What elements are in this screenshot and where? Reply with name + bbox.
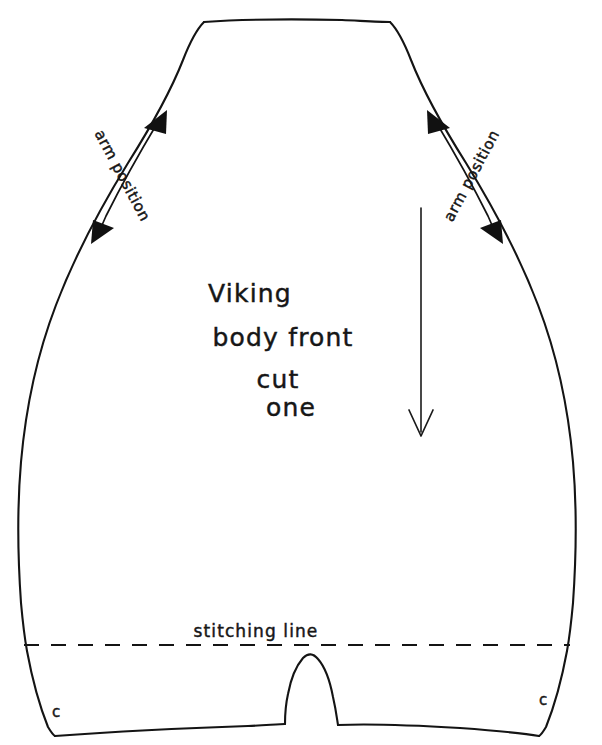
pattern-sheet: arm position arm position Viking body fr… [0, 0, 602, 745]
pattern-title-line-1: Viking [208, 279, 292, 308]
corner-c-mark-left: c [52, 703, 60, 721]
pattern-outline-lower-left [27, 651, 55, 736]
corner-c-mark-right: c [539, 691, 547, 709]
pattern-outline-right-side [390, 22, 576, 651]
center-bottom-notch [285, 654, 338, 725]
pattern-drawing: arm position arm position Viking body fr… [0, 0, 602, 745]
pattern-outline-bottom-right [338, 725, 539, 736]
pattern-outline-left-side [18, 22, 204, 651]
pattern-title-line-2: body front [212, 323, 353, 352]
pattern-title-line-3: cut [257, 365, 300, 394]
pattern-title-line-4: one [266, 393, 316, 422]
stitching-line-label: stitching line [194, 621, 319, 641]
pattern-outline-bottom-left [55, 724, 285, 736]
pattern-outline-top-edge [204, 19, 390, 22]
